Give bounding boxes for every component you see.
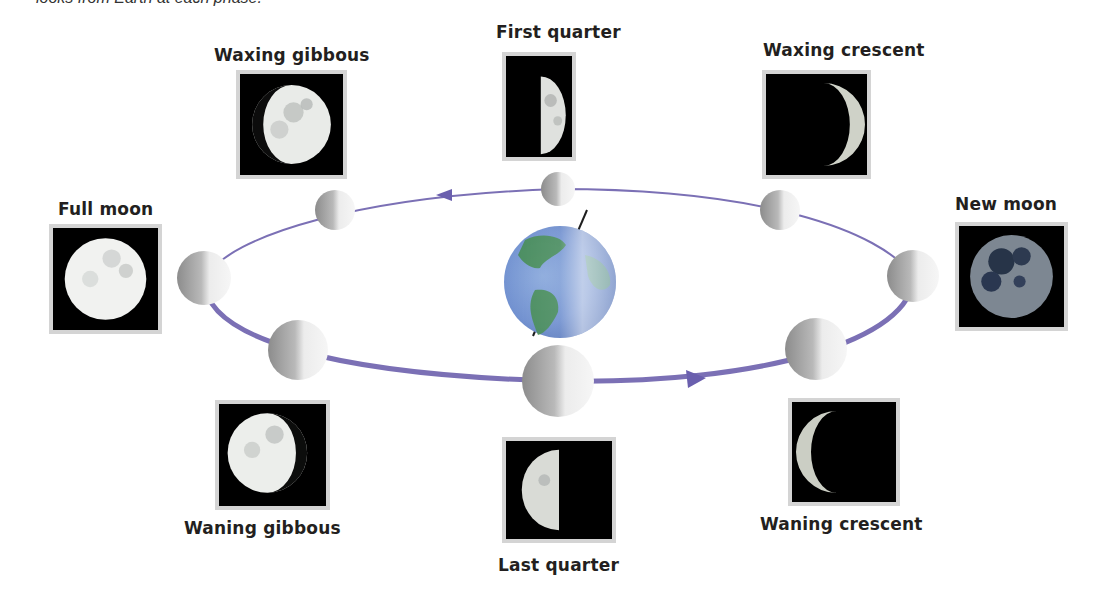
label-new-moon: New moon: [955, 194, 1057, 214]
earth-icon: [504, 226, 616, 338]
photo-full-moon: [49, 224, 162, 334]
moon-waxing-crescent-icon: [766, 74, 867, 175]
photo-waning-crescent: [788, 398, 900, 506]
moon-full-moon-icon: [53, 228, 158, 330]
orbit-moon-waning-crescent: [785, 318, 847, 380]
orbit-moon-waning-gibbous: [268, 320, 328, 380]
moon-new-moon-icon: [959, 226, 1064, 327]
photo-waxing-gibbous: [236, 70, 347, 179]
photo-waxing-crescent: [762, 70, 871, 179]
moon-last-quarter-icon: [506, 441, 612, 539]
orbit-moon-waxing-gibbous: [315, 190, 355, 230]
photo-new-moon: [955, 222, 1068, 331]
moon-waxing-gibbous-icon: [240, 74, 343, 175]
orbit-moon-full-moon: [177, 251, 231, 305]
label-last-quarter: Last quarter: [498, 555, 619, 575]
moon-first-quarter-icon: [506, 56, 572, 157]
label-waning-crescent: Waning crescent: [760, 514, 923, 534]
label-waxing-gibbous: Waxing gibbous: [214, 45, 370, 65]
moon-waning-gibbous-icon: [219, 404, 326, 506]
orbit-moon-new-moon: [887, 250, 939, 302]
moon-waning-crescent-icon: [792, 402, 896, 502]
photo-last-quarter: [502, 437, 616, 543]
label-full-moon: Full moon: [58, 199, 153, 219]
orbit-arrow-left-icon: [436, 189, 452, 201]
label-waxing-crescent: Waxing crescent: [763, 40, 925, 60]
label-first-quarter: First quarter: [496, 22, 621, 42]
photo-first-quarter: [502, 52, 576, 161]
orbit-moon-first-quarter: [541, 172, 575, 206]
orbit-moon-last-quarter: [522, 345, 594, 417]
orbit-moon-waxing-crescent: [760, 190, 800, 230]
label-waning-gibbous: Waning gibbous: [184, 518, 341, 538]
photo-waning-gibbous: [215, 400, 330, 510]
